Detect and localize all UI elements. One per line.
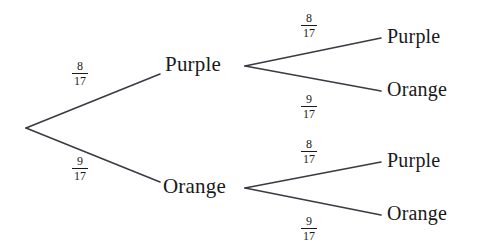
branch-purple-to-orange <box>245 66 381 91</box>
probability-orange-to-purple: 8 17 <box>301 138 317 165</box>
node-label-purple: Purple <box>165 54 221 75</box>
fraction-denominator: 17 <box>301 27 317 39</box>
fraction-denominator: 17 <box>72 75 88 87</box>
node-label-orange: Orange <box>163 176 226 197</box>
fraction-numerator: 8 <box>301 12 317 24</box>
leaf-label-purple-orange: Orange <box>387 79 447 99</box>
branch-purple-to-purple <box>245 38 381 66</box>
probability-root-to-purple: 8 17 <box>72 60 88 87</box>
leaf-label-purple-purple: Purple <box>387 26 440 46</box>
fraction-denominator: 17 <box>301 153 317 165</box>
fraction-denominator: 17 <box>301 230 317 242</box>
probability-purple-to-orange: 9 17 <box>301 93 317 120</box>
leaf-label-orange-purple: Purple <box>387 150 440 170</box>
fraction-numerator: 9 <box>301 215 317 227</box>
fraction-denominator: 17 <box>301 108 317 120</box>
leaf-label-orange-orange: Orange <box>387 203 447 223</box>
fraction-denominator: 17 <box>72 170 88 182</box>
fraction-numerator: 9 <box>301 93 317 105</box>
branch-root-to-purple <box>26 74 160 128</box>
probability-root-to-orange: 9 17 <box>72 155 88 182</box>
fraction-numerator: 8 <box>72 60 88 72</box>
probability-purple-to-purple: 8 17 <box>301 12 317 39</box>
probability-tree-diagram: Purple Orange Purple Orange Purple Orang… <box>0 0 479 248</box>
branch-root-to-orange <box>26 128 160 182</box>
branch-orange-to-orange <box>245 188 381 215</box>
probability-orange-to-orange: 9 17 <box>301 215 317 242</box>
fraction-numerator: 8 <box>301 138 317 150</box>
fraction-numerator: 9 <box>72 155 88 167</box>
